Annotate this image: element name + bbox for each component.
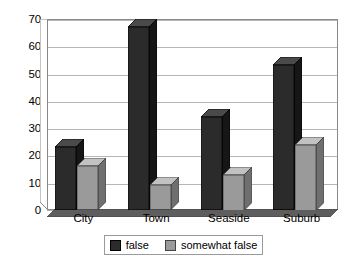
bar-seaside-somewhat-false xyxy=(223,175,244,210)
legend-item-somewhat-false: somewhat false xyxy=(165,239,257,251)
bar-town-somewhat-false xyxy=(150,185,171,210)
bar-town-false xyxy=(128,27,149,210)
bar-city-false xyxy=(55,147,76,210)
x-axis-label-seaside: Seaside xyxy=(208,212,250,224)
bar-seaside-false xyxy=(201,117,222,210)
legend-label: somewhat false xyxy=(181,239,257,251)
bar-chart: 010203040506070 CityTownSeasideSuburb fa… xyxy=(0,0,354,269)
bar-suburb-false xyxy=(273,65,294,210)
chart-legend: false somewhat false xyxy=(104,235,263,255)
bars-layer xyxy=(47,19,338,210)
legend-label: false xyxy=(126,239,149,251)
legend-swatch-icon xyxy=(110,240,121,251)
bar-city-somewhat-false xyxy=(77,166,98,210)
legend-swatch-icon xyxy=(165,240,176,251)
x-axis-label-suburb: Suburb xyxy=(283,212,320,224)
legend-item-false: false xyxy=(110,239,149,251)
y-axis: 010203040506070 xyxy=(8,19,41,210)
bar-suburb-somewhat-false xyxy=(295,145,316,210)
x-axis-label-town: Town xyxy=(143,212,170,224)
x-axis-label-city: City xyxy=(73,212,93,224)
x-axis-labels: CityTownSeasideSuburb xyxy=(47,212,338,230)
